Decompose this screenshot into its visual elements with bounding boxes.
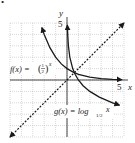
graph: y 5 5 x f(x) = ( 1 2 ) x g(x) = log 1/2 … <box>0 0 135 143</box>
x-tick-label: 5 <box>117 82 122 92</box>
y-axis-label: y <box>58 8 63 18</box>
x-axis-label: x <box>127 82 132 92</box>
f-label-prefix: f(x) = <box>10 64 30 74</box>
svg-text:): ) <box>45 63 48 75</box>
g-label-sub: 1/2 <box>96 113 103 118</box>
f-label-exp: x <box>48 61 52 67</box>
f-label: f(x) = ( 1 2 ) x <box>10 61 56 75</box>
g-label-arg: x <box>105 105 110 114</box>
y-tick-label: 5 <box>58 19 63 29</box>
g-label: g(x) = log 1/2 x <box>53 105 113 118</box>
curve-g <box>67 25 119 105</box>
g-label-prefix: g(x) = log <box>54 106 89 116</box>
